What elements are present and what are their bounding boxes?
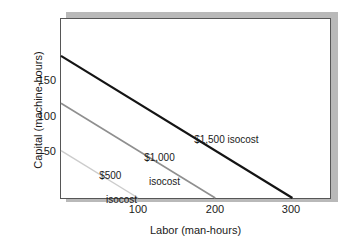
annotation-isocost-1000: $1,000 isocost (133, 140, 180, 212)
annotation-isocost-1500-text: $1,500 isocost (194, 134, 259, 145)
y-axis-title: Capital (machine-hours) (32, 20, 44, 200)
annotation-isocost-1000-line2: isocost (133, 176, 180, 188)
annotation-isocost-500-line2: isocost (88, 194, 137, 206)
annotation-isocost-500: $500 isocost (88, 158, 137, 230)
annotation-isocost-1500: $1,500 isocost (183, 122, 259, 158)
x-tick-label-200: 200 (195, 203, 235, 215)
x-tick-label-300: 300 (271, 203, 311, 215)
annotation-isocost-1000-line1: $1,000 (144, 152, 175, 163)
annotation-isocost-500-line1: $500 (99, 170, 121, 181)
isocost-chart-figure: 150 100 50 100 200 300 Capital (machine-… (0, 0, 354, 251)
